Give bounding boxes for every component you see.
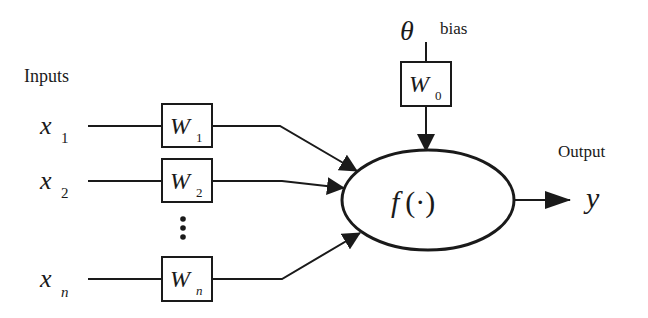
input-x2-sub: 2 bbox=[61, 185, 69, 201]
function-args: (·) bbox=[405, 185, 435, 219]
input-row-n: x n W n bbox=[39, 233, 360, 301]
weight-n-var: W bbox=[170, 266, 192, 292]
weight-n-sub: n bbox=[196, 283, 203, 298]
input-x1-sub: 1 bbox=[61, 130, 69, 146]
connection-arrow-1 bbox=[212, 126, 357, 171]
ellipsis-dots bbox=[180, 216, 186, 240]
input-xn-sub: n bbox=[61, 284, 69, 300]
inputs-label: Inputs bbox=[24, 66, 69, 86]
connection-arrow-n bbox=[212, 233, 360, 279]
input-row-2: x 2 W 2 bbox=[39, 159, 344, 202]
output-label: Output bbox=[558, 142, 606, 161]
bias-input: θ bias W 0 bbox=[400, 15, 467, 151]
input-x2-var: x bbox=[39, 166, 52, 195]
output-y: y bbox=[583, 181, 600, 214]
weight-1-sub: 1 bbox=[196, 130, 203, 145]
theta-symbol: θ bbox=[400, 15, 414, 46]
weight-1-var: W bbox=[170, 113, 192, 139]
connection-arrow-2 bbox=[212, 181, 344, 188]
weight-2-var: W bbox=[170, 168, 192, 194]
input-x1-var: x bbox=[39, 111, 52, 140]
input-xn-var: x bbox=[39, 264, 52, 293]
weight-2-sub: 2 bbox=[196, 185, 203, 200]
weight-0-sub: 0 bbox=[435, 88, 442, 103]
activation-function-label: f(·) bbox=[391, 185, 435, 219]
weight-0-var: W bbox=[409, 71, 431, 97]
bias-label: bias bbox=[440, 19, 467, 38]
neuron-diagram: Inputs x 1 W 1 x 2 W 2 x n W n θ bias bbox=[0, 0, 648, 318]
